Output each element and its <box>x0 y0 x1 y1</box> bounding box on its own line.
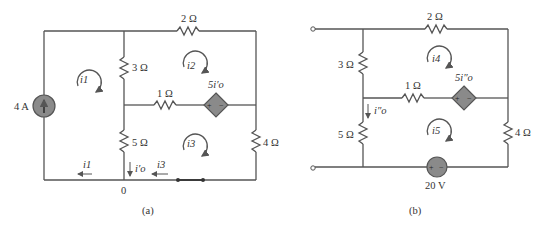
svg-text:−: − <box>219 101 224 110</box>
label-branch-i3: i3 <box>157 159 165 170</box>
resistor-1ohm-a <box>154 101 176 109</box>
label-branch-i1: i1 <box>83 159 91 170</box>
resistor-3ohm-b <box>359 52 367 74</box>
circuit-figure: + − 2 Ω 3 Ω 1 Ω 5 Ω 4 Ω 5i′o 4 A i1 i2 i… <box>0 0 547 229</box>
label-4ohm-b: 4 Ω <box>515 127 531 138</box>
label-dep-source-a: 5i′o <box>208 79 224 90</box>
resistor-2ohm-a <box>177 27 199 35</box>
circuit-a: + − 2 Ω 3 Ω 1 Ω 5 Ω 4 Ω 5i′o 4 A i1 i2 i… <box>14 13 279 217</box>
label-1ohm-a: 1 Ω <box>157 88 173 99</box>
resistor-5ohm-a <box>120 130 128 152</box>
label-mesh-i4: i4 <box>432 53 441 64</box>
label-4ohm-a: 4 Ω <box>263 137 279 148</box>
label-mesh-i1: i1 <box>80 74 88 85</box>
svg-text:+: + <box>207 101 212 110</box>
caption-a: (a) <box>142 205 154 217</box>
terminal-bottom-b <box>311 166 315 170</box>
resistor-2ohm-b <box>425 25 447 33</box>
label-2ohm-a: 2 Ω <box>181 13 197 24</box>
svg-text:+: + <box>429 163 434 172</box>
label-2ohm-b: 2 Ω <box>427 11 443 22</box>
label-dep-source-b: 5i″o <box>455 72 473 83</box>
circuit-b: + − + − 2 Ω 3 Ω 1 Ω 5 Ω 4 Ω 5i″o 20 V i4… <box>311 11 531 217</box>
resistor-1ohm-b <box>402 94 424 102</box>
label-4A: 4 A <box>14 101 29 112</box>
label-mesh-i3: i3 <box>187 138 195 149</box>
svg-text:−: − <box>467 94 472 103</box>
caption-b: (b) <box>409 205 422 217</box>
label-1ohm-b: 1 Ω <box>405 80 421 91</box>
label-branch-io-b: i″o <box>374 105 387 116</box>
resistor-4ohm-b <box>504 122 512 144</box>
label-3ohm-b: 3 Ω <box>338 59 354 70</box>
resistor-5ohm-b <box>359 122 367 144</box>
terminal-top-b <box>311 27 315 31</box>
label-3ohm-a: 3 Ω <box>132 62 148 73</box>
resistor-4ohm-a <box>252 130 260 152</box>
label-branch-io-a: i′o <box>135 163 145 174</box>
svg-text:+: + <box>455 94 460 103</box>
label-node-0: 0 <box>121 185 126 196</box>
label-5ohm-a: 5 Ω <box>132 137 148 148</box>
svg-text:−: − <box>439 163 444 172</box>
resistor-3ohm-a <box>120 57 128 79</box>
label-5ohm-b: 5 Ω <box>338 129 354 140</box>
label-mesh-i2: i2 <box>187 60 196 71</box>
label-20V: 20 V <box>425 180 446 191</box>
label-mesh-i5: i5 <box>432 125 440 136</box>
